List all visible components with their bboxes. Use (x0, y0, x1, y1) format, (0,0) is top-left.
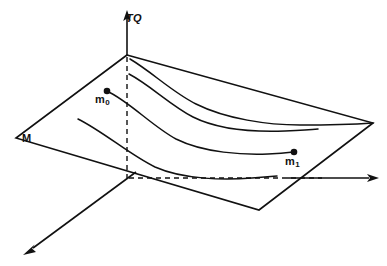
marked-points (104, 88, 298, 156)
flow-curves (78, 59, 373, 179)
manifold-outline (16, 55, 373, 210)
point-m0-base: m (95, 93, 105, 105)
front-left-axis (23, 172, 136, 255)
front-left-axis-arrow-icon (23, 245, 36, 255)
right-axis (287, 174, 379, 182)
front-left-axis-line (33, 172, 136, 248)
figure-canvas: TQ M m0 m1 (0, 0, 387, 266)
manifold-label: M (22, 133, 31, 144)
vertical-axis-label: TQ (126, 13, 142, 24)
point-m1-label: m1 (285, 156, 299, 167)
flow-curve-1 (130, 59, 373, 125)
flow-curve-2 (129, 74, 318, 131)
point-m0-label: m0 (95, 94, 109, 105)
point-m1-subscript: 1 (295, 160, 299, 169)
flow-curve-4 (78, 119, 277, 179)
point-m1-base: m (285, 155, 295, 167)
manifold-plane-M (16, 55, 373, 210)
diagram-svg (0, 0, 387, 266)
point-m0-subscript: 0 (105, 98, 109, 107)
